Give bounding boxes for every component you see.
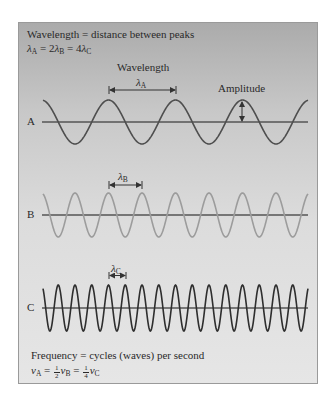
wavelength-a-bracket [109,86,176,94]
equals: = [70,364,82,376]
wavelength-b-bracket [109,181,142,189]
equals: = [41,364,53,376]
wavelength-c-bracket [109,272,126,279]
denominator: 4 [83,373,89,380]
fraction-quarter: 14 [83,365,89,380]
frequency-relation: νA = 12νB = 14νC [31,364,100,380]
frequency-definition: Frequency = cycles (waves) per second [31,349,204,362]
subscript-c: C [95,369,100,378]
fraction-half: 12 [54,365,60,380]
denominator: 2 [54,373,60,380]
waves-canvas [0,0,335,408]
